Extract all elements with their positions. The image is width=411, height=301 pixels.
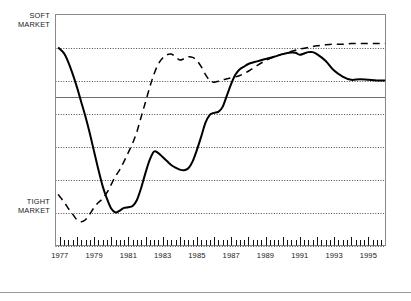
series-line-2 <box>58 43 385 221</box>
x-tick-label: 1977 <box>51 251 68 260</box>
footer-divider <box>0 292 411 293</box>
x-tick-label: 1995 <box>360 251 377 260</box>
x-axis-tick-labels: 1977197919811983198519871989199119931995 <box>51 251 377 260</box>
chart-figure: SOFT MARKET TIGHT MARKET 197719791981198… <box>0 0 411 301</box>
data-series-group <box>58 43 385 221</box>
plot-frame <box>56 15 386 246</box>
x-tick-label: 1983 <box>154 251 171 260</box>
x-tick-label: 1991 <box>291 251 308 260</box>
x-tick-label: 1981 <box>120 251 137 260</box>
x-tick-label: 1979 <box>85 251 102 260</box>
x-tick-label: 1987 <box>223 251 240 260</box>
x-axis-ticks <box>61 237 382 246</box>
x-tick-label: 1989 <box>257 251 274 260</box>
plot-svg: 1977197919811983198519871989199119931995 <box>0 0 411 301</box>
x-tick-label: 1993 <box>325 251 342 260</box>
series-line-1 <box>58 48 385 213</box>
gridlines-group <box>56 49 386 247</box>
x-tick-label: 1985 <box>188 251 205 260</box>
